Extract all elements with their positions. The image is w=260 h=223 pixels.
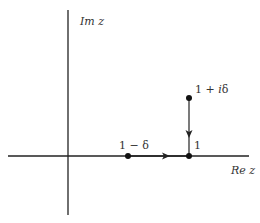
point-one-minus-delta	[125, 153, 131, 159]
label-re-z: Re z	[230, 164, 255, 177]
point-one-plus-i-delta	[186, 95, 192, 101]
label-one: 1	[194, 139, 201, 152]
label-one-plus-i-delta: 1 + iδ	[195, 83, 229, 96]
label-one-minus-delta: 1 − δ	[119, 139, 149, 152]
label-im-z: Im z	[79, 15, 104, 28]
complex-plane-diagram: Im z Re z 1 − δ 1 1 + iδ	[0, 0, 260, 223]
point-one	[186, 153, 192, 159]
